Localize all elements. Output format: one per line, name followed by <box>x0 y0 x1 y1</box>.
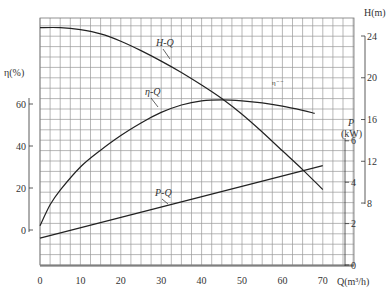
eta-small-label: η⁻⁻ <box>272 79 284 87</box>
plot-frame <box>40 18 354 265</box>
q-axis-label: Q(m³/h) <box>337 276 369 288</box>
eta-tick-label: 60 <box>16 99 26 110</box>
h-axis-label: H(m) <box>364 7 386 19</box>
h-tick-label: 12 <box>367 156 377 167</box>
h-tick-label: 8 <box>367 198 372 209</box>
eta-tick-label: 20 <box>16 183 26 194</box>
x-tick-label: 60 <box>277 275 287 286</box>
x-tick-label: 20 <box>116 275 126 286</box>
x-tick-label: 30 <box>156 275 166 286</box>
hq-curve-label: H-Q <box>155 37 175 48</box>
eta-tick-label: 0 <box>21 225 26 236</box>
x-tick-label: 50 <box>237 275 247 286</box>
hq-leader-line <box>163 49 170 59</box>
x-tick-label: 0 <box>38 275 43 286</box>
p-tick-label: 0 <box>351 260 356 271</box>
pq-leader-line <box>162 199 168 204</box>
h-tick-label: 16 <box>367 114 377 125</box>
pq-curve-label: P-Q <box>154 187 172 198</box>
p-tick-label: 4 <box>351 177 356 188</box>
p-axis-unit: (kW) <box>341 128 362 140</box>
x-tick-label: 40 <box>197 275 207 286</box>
h-tick-label: 24 <box>367 31 377 42</box>
p-tick-label: 2 <box>351 218 356 229</box>
etaq-curve-label: η-Q <box>145 86 161 97</box>
x-tick-label: 10 <box>75 275 85 286</box>
eta-tick-label: 40 <box>16 141 26 152</box>
pump-performance-chart: 01020304050607002040600246812162024 η(%)… <box>0 0 390 298</box>
etaq-leader-line <box>151 98 158 107</box>
eta-axis-label: η(%) <box>4 67 24 79</box>
etaq-curve <box>40 100 315 226</box>
grid <box>40 18 354 265</box>
p-axis-label: P <box>347 117 354 128</box>
x-tick-label: 70 <box>318 275 328 286</box>
h-tick-label: 20 <box>367 72 377 83</box>
